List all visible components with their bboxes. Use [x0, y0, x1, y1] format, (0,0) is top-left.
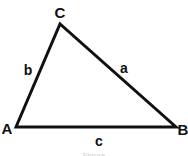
figure-caption: Figure	[83, 151, 106, 156]
vertex-label-c: C	[55, 4, 66, 21]
side-label-a: a	[120, 60, 128, 76]
side-label-c: c	[95, 133, 103, 149]
side-label-b: b	[24, 62, 33, 78]
vertex-label-a: A	[2, 120, 13, 137]
triangle-diagram: C A B b a c Figure	[0, 0, 188, 156]
vertex-label-b: B	[178, 121, 188, 138]
triangle-abc	[16, 24, 176, 127]
